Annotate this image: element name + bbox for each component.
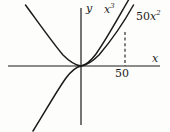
math-figure-cubic-vs-quadratic: y x x3 50x2 50 [0,0,170,132]
curve-label-quad-coefficient: 50 [136,10,150,23]
curve-label-50x-squared: 50x2 [136,11,161,22]
y-axis-label: y [86,3,92,14]
curve-label-quad-exponent: 2 [156,9,160,17]
curve-label-cubic-exponent: 3 [110,2,114,10]
curve-50x-squared [26,5,134,66]
x-axis-label: x [152,53,158,64]
curve-label-x-cubed: x3 [104,4,115,15]
x-tick-label-50: 50 [115,68,129,79]
